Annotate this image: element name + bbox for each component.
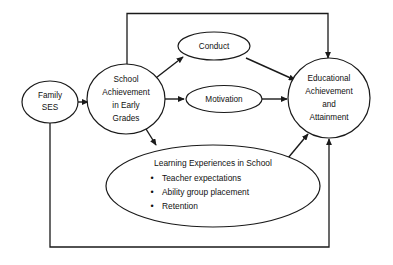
bullet-marker-1: • [150,173,153,183]
motivation-label: Motivation [205,95,243,104]
school-achievement-label-line-2: Achievement [102,88,150,97]
learning-experiences-title: Learning Experiences in School [154,158,272,168]
learning-experiences-bullet-2: Ability group placement [162,187,250,197]
diagram-canvas: Family SES School Achievement in Early G… [0,0,393,265]
school-achievement-label-line-1: School [113,75,138,84]
bullet-marker-3: • [150,201,153,211]
educational-achievement-label-line-3: and [322,100,336,109]
node-school-achievement[interactable]: School Achievement in Early Grades [87,64,165,134]
educational-achievement-label-line-1: Educational [308,74,351,83]
node-conduct[interactable]: Conduct [178,32,250,60]
edge-learning-experiences-to-educational-achievement [288,134,308,158]
learning-experiences-bullet-3: Retention [162,201,198,211]
node-motivation[interactable]: Motivation [186,86,262,113]
family-ses-label-line-1: Family [38,91,63,100]
node-family-ses[interactable]: Family SES [22,81,78,123]
school-achievement-label-line-3: in Early [112,101,140,110]
educational-achievement-label-line-2: Achievement [305,87,353,96]
node-learning-experiences[interactable]: Learning Experiences in School • Teacher… [106,145,320,227]
educational-achievement-ellipse [288,58,370,138]
path-model-diagram: Family SES School Achievement in Early G… [0,0,393,265]
school-achievement-label-line-4: Grades [113,114,140,123]
edge-conduct-to-educational-achievement [246,58,295,80]
educational-achievement-label-line-4: Attainment [309,113,349,122]
family-ses-ellipse [22,81,78,123]
learning-experiences-bullet-1: Teacher expectations [162,173,241,183]
conduct-label: Conduct [199,42,230,51]
family-ses-label-line-2: SES [42,103,59,112]
bullet-marker-2: • [150,187,153,197]
node-educational-achievement[interactable]: Educational Achievement and Attainment [288,58,370,138]
